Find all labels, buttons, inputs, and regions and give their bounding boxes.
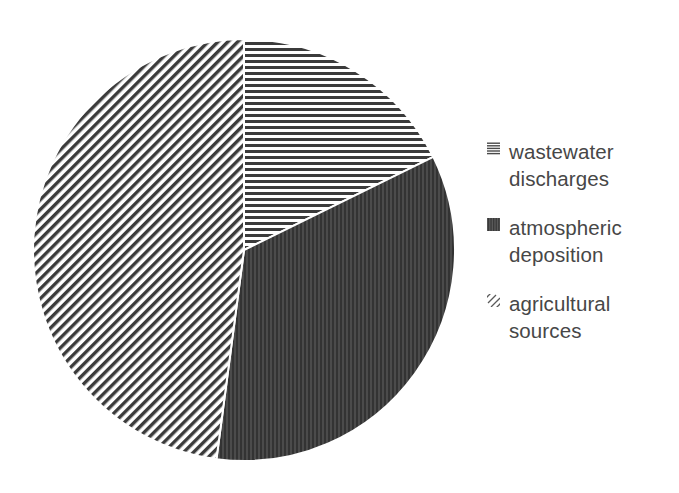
solid-dark-icon bbox=[487, 218, 500, 231]
legend-item-atmospheric-deposition[interactable]: atmospheric deposition bbox=[487, 214, 672, 268]
pie-chart-svg bbox=[0, 0, 470, 493]
legend-label-wastewater-discharges: wastewater discharges bbox=[509, 138, 669, 192]
pie-chart-area bbox=[0, 0, 470, 493]
legend-label-agricultural-sources: agricultural sources bbox=[509, 290, 669, 344]
horizontal-hatch-icon bbox=[487, 142, 500, 155]
diagonal-hatch-icon bbox=[487, 294, 500, 307]
pie-chart-figure: wastewater discharges atmospheric deposi… bbox=[0, 0, 679, 493]
legend-label-atmospheric-deposition: atmospheric deposition bbox=[509, 214, 669, 268]
legend-item-agricultural-sources[interactable]: agricultural sources bbox=[487, 290, 672, 344]
legend-item-wastewater-discharges[interactable]: wastewater discharges bbox=[487, 138, 672, 192]
pie-slice-agricultural-sources[interactable] bbox=[33, 39, 244, 459]
chart-legend: wastewater discharges atmospheric deposi… bbox=[487, 138, 672, 366]
